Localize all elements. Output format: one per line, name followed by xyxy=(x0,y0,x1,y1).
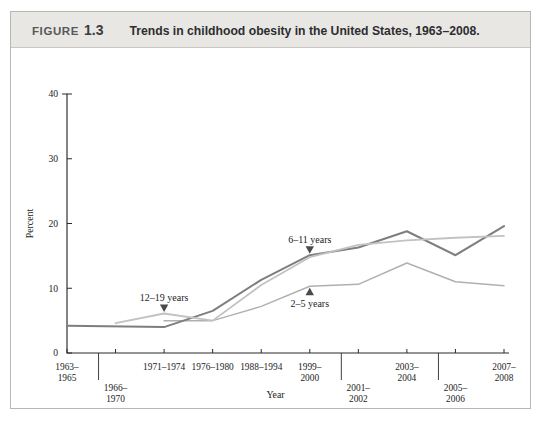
x-tick-label: 2005–2006 xyxy=(444,383,468,404)
series-line-2-5-years xyxy=(164,263,504,321)
y-tick-label: 10 xyxy=(48,283,58,294)
x-tick-label-text: 1966– xyxy=(104,383,128,393)
x-tick-label-text: 2004 xyxy=(398,373,417,383)
x-tick-label: 1976–1980 xyxy=(192,362,235,372)
x-tick-label-text: 1988–1994 xyxy=(240,362,283,372)
x-tick-label: 2003–2004 xyxy=(395,362,419,383)
x-tick-label-text: 2006 xyxy=(446,394,465,404)
chart-axes: 010203040 xyxy=(48,88,509,358)
x-tick-label: 1966–1970 xyxy=(104,383,128,404)
annotation-label: 2–5 years xyxy=(290,298,329,309)
chart-annotations-group: 12–19 years6–11 years2–5 years xyxy=(140,234,332,312)
annotation-marker-icon xyxy=(306,288,314,296)
figure-number: 1.3 xyxy=(84,22,103,38)
annotation-marker-icon xyxy=(160,305,168,313)
x-tick-label-text: 1976–1980 xyxy=(192,362,235,372)
x-tick-label: 2001–2002 xyxy=(347,383,371,404)
y-tick-label: 20 xyxy=(48,218,58,229)
chart-plot-area: 010203040 12–19 years6–11 years2–5 years… xyxy=(11,48,530,409)
x-tick-label-text: 1999– xyxy=(298,362,322,372)
annotation-2-5-years: 2–5 years xyxy=(290,288,329,310)
x-axis-title: Year xyxy=(266,389,285,400)
series-line-6-11-years xyxy=(67,226,504,327)
x-tick-label-text: 2007– xyxy=(492,362,516,372)
x-tick-label-text: 1970 xyxy=(106,394,125,404)
x-tick-label-text: 2005– xyxy=(444,383,468,393)
x-tick-label-text: 1965 xyxy=(58,373,77,383)
axis-lines xyxy=(62,94,509,353)
x-tick-label-text: 2008 xyxy=(495,373,514,383)
annotation-12-19-years: 12–19 years xyxy=(140,292,189,312)
y-tick-label: 30 xyxy=(48,153,58,164)
annotation-marker-icon xyxy=(306,246,314,254)
line-chart: 010203040 12–19 years6–11 years2–5 years… xyxy=(11,48,532,409)
figure-header-band: FIGURE 1.3 Trends in childhood obesity i… xyxy=(11,12,530,48)
x-tick-label: 1971–1974 xyxy=(143,362,186,372)
figure-label: FIGURE xyxy=(32,25,79,37)
x-tick-label-text: 2002 xyxy=(349,394,368,404)
figure-container: FIGURE 1.3 Trends in childhood obesity i… xyxy=(10,11,531,409)
x-tick-label: 1988–1994 xyxy=(240,362,283,372)
y-tick-label: 0 xyxy=(53,347,58,358)
y-axis-title: Percent xyxy=(24,209,35,239)
x-tick-label: 1963–1965 xyxy=(55,362,79,383)
x-tick-label: 2007–2008 xyxy=(492,362,516,383)
figure-title: Trends in childhood obesity in the Unite… xyxy=(130,24,480,38)
x-tick-label-text: 2000 xyxy=(300,373,319,383)
x-tick-label-text: 2001– xyxy=(347,383,371,393)
annotation-label: 6–11 years xyxy=(288,234,331,245)
annotation-label: 12–19 years xyxy=(140,292,189,303)
chart-series-group xyxy=(67,226,504,327)
figure-caption: FIGURE 1.3 Trends in childhood obesity i… xyxy=(32,22,480,38)
y-tick-label: 40 xyxy=(48,88,58,99)
x-tick-label-text: 1963– xyxy=(55,362,79,372)
x-tick-label: 1999–2000 xyxy=(298,362,322,383)
annotation-6-11-years: 6–11 years xyxy=(288,234,331,254)
x-tick-label-text: 2003– xyxy=(395,362,419,372)
x-tick-label-text: 1971–1974 xyxy=(143,362,186,372)
